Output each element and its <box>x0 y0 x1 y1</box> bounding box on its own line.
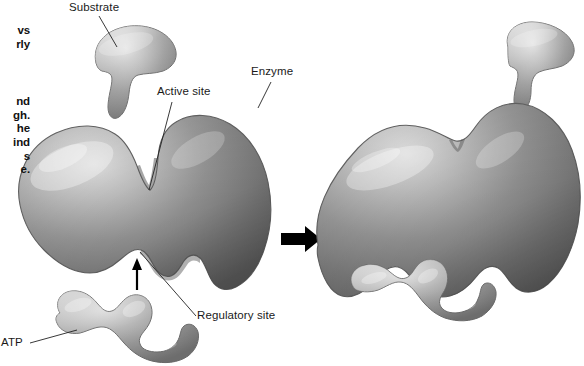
label-substrate: Substrate <box>69 1 119 13</box>
substrate-shape-right <box>507 22 574 111</box>
caption-line-4: gh. <box>0 109 30 123</box>
transition-arrow-right <box>281 226 321 252</box>
leader-enzyme <box>258 82 271 108</box>
caption-line-3: nd <box>0 95 30 109</box>
caption-line-8: e. <box>0 163 30 177</box>
label-atp: ATP <box>1 336 23 348</box>
label-active-site: Active site <box>157 85 211 97</box>
caption-line-2: rly <box>0 38 30 52</box>
substrate-shape <box>95 26 176 119</box>
caption-line-5: he <box>0 122 30 136</box>
figure-artwork <box>0 0 584 366</box>
caption-line-6: ind <box>0 136 30 150</box>
figure-allosteric-regulation: vs rly nd gh. he ind s e. Substrate Acti… <box>0 0 584 366</box>
caption-line-7: s <box>0 150 30 164</box>
caption-line-1: vs <box>0 24 30 38</box>
leader-atp <box>30 330 77 343</box>
label-regulatory-site: Regulatory site <box>197 309 275 321</box>
enzyme-shape-left <box>19 115 271 289</box>
binding-arrow-up <box>132 258 142 290</box>
label-enzyme: Enzyme <box>251 65 293 77</box>
caption-column: vs rly nd gh. he ind s e. <box>0 24 30 177</box>
atp-shape-left <box>56 291 199 363</box>
panel-after-binding <box>317 22 580 321</box>
enzyme-shape-right <box>317 103 580 296</box>
